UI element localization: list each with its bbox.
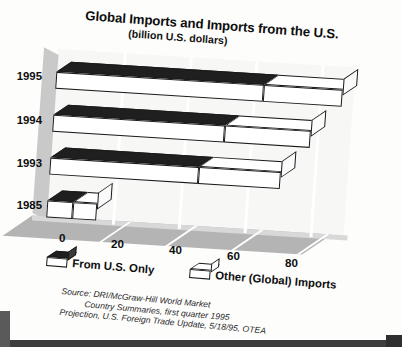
y-tick-1993: 1993 xyxy=(0,157,42,169)
chart-title-block: Global Imports and Imports from the U.S.… xyxy=(84,8,385,58)
scan-edge-left xyxy=(0,311,10,347)
plot-area xyxy=(30,48,359,263)
x-tick-20: 20 xyxy=(111,237,124,250)
bar-front-face xyxy=(72,202,97,220)
y-tick-1985: 1985 xyxy=(0,199,42,211)
bar-1994 xyxy=(52,115,53,132)
legend-label-from-us-only: From U.S. Only xyxy=(72,257,155,276)
y-tick-1994: 1994 xyxy=(0,114,42,126)
scan-edge-bottom xyxy=(0,340,402,347)
bar-1985-other-global xyxy=(72,202,97,220)
x-tick-60: 60 xyxy=(227,249,240,262)
scan-corner-shadow xyxy=(386,335,402,347)
chart-scan-page: Global Imports and Imports from the U.S.… xyxy=(0,0,402,347)
x-tick-40: 40 xyxy=(169,243,182,256)
legend-swatch-front xyxy=(189,269,211,280)
legend-label-other-global-imports: Other (Global) Imports xyxy=(215,269,337,291)
source-note: Source: DRI/McGraw-Hill World Market Cou… xyxy=(59,286,381,346)
bar-1995 xyxy=(55,72,56,89)
legend-swatch-other-global-imports xyxy=(189,269,211,280)
bar-1985-from-us xyxy=(46,201,73,220)
legend-swatch-front xyxy=(46,257,68,268)
y-tick-1995: 1995 xyxy=(0,70,42,82)
x-tick-80: 80 xyxy=(285,256,298,269)
bar-front-face xyxy=(46,201,73,220)
x-tick-0: 0 xyxy=(59,231,65,244)
y-axis-labels: 1995 1994 1993 1985 xyxy=(0,0,50,250)
legend-swatch-from-us-only xyxy=(46,257,68,268)
